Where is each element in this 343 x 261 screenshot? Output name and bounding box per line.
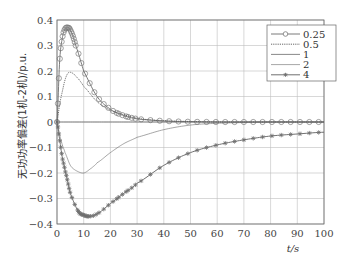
asterisk-marker <box>64 173 68 177</box>
x-tick-label: 30 <box>131 228 144 239</box>
asterisk-marker <box>284 73 288 77</box>
asterisk-marker <box>65 178 69 182</box>
asterisk-marker <box>176 156 180 160</box>
asterisk-marker <box>260 135 264 139</box>
asterisk-marker <box>316 130 320 134</box>
y-axis-ticks: 0.40.30.20.10−0.1−0.2−0.3−0.4 <box>29 15 53 230</box>
x-tick-label: 60 <box>211 228 224 239</box>
y-tick-label: 0.1 <box>37 91 53 102</box>
asterisk-marker <box>251 136 255 140</box>
asterisk-marker <box>60 157 64 161</box>
asterisk-marker <box>56 125 60 129</box>
asterisk-marker <box>63 170 67 174</box>
asterisk-marker <box>66 182 70 186</box>
asterisk-marker <box>59 151 63 155</box>
asterisk-marker <box>70 195 74 199</box>
asterisk-marker <box>126 188 130 192</box>
y-axis-label: 无功功率偏差(1机-2机)/p.u. <box>16 53 28 180</box>
asterisk-marker <box>106 203 110 207</box>
asterisk-marker <box>117 195 121 199</box>
asterisk-marker <box>298 132 302 136</box>
asterisk-marker <box>214 143 218 147</box>
x-tick-label: 50 <box>184 228 197 239</box>
y-tick-label: −0.3 <box>29 193 53 204</box>
asterisk-marker <box>59 145 63 149</box>
y-tick-label: 0.3 <box>37 40 53 51</box>
asterisk-marker <box>232 139 236 143</box>
asterisk-marker <box>139 179 143 183</box>
x-tick-label: 40 <box>157 228 170 239</box>
asterisk-marker <box>223 141 227 145</box>
legend: 0.250.5124 <box>267 25 336 81</box>
y-tick-label: −0.2 <box>29 168 53 179</box>
asterisk-marker <box>58 139 62 143</box>
y-tick-label: 0.4 <box>37 15 53 26</box>
asterisk-marker <box>242 138 246 142</box>
y-tick-label: −0.1 <box>29 142 53 153</box>
asterisk-marker <box>158 166 162 170</box>
asterisk-marker <box>307 131 311 135</box>
x-tick-label: 80 <box>264 228 277 239</box>
line-chart: 0.40.30.20.10−0.1−0.2−0.3−0.4 0102030405… <box>0 0 343 261</box>
asterisk-marker <box>67 186 71 190</box>
legend-box <box>267 25 336 81</box>
asterisk-marker <box>167 160 171 164</box>
asterisk-marker <box>111 199 115 203</box>
x-tick-label: 90 <box>291 228 304 239</box>
series-4 <box>55 120 324 219</box>
asterisk-marker <box>120 192 124 196</box>
asterisk-marker <box>186 151 190 155</box>
asterisk-marker <box>133 183 137 187</box>
diamond-marker <box>283 32 288 37</box>
x-tick-label: 10 <box>77 228 90 239</box>
x-tick-label: 0 <box>54 228 60 239</box>
asterisk-marker <box>61 161 65 165</box>
y-tick-label: 0 <box>47 117 53 128</box>
asterisk-marker <box>148 172 152 176</box>
asterisk-marker <box>73 202 77 206</box>
asterisk-marker <box>270 134 274 138</box>
asterisk-marker <box>288 132 292 136</box>
x-tick-label: 70 <box>238 228 251 239</box>
legend-label: 4 <box>303 69 309 80</box>
x-tick-label: 100 <box>314 228 333 239</box>
asterisk-marker <box>97 210 101 214</box>
x-axis-ticks: 0102030405060708090100 <box>54 228 334 239</box>
y-tick-label: 0.2 <box>37 66 53 77</box>
asterisk-marker <box>130 186 134 190</box>
asterisk-marker <box>68 190 72 194</box>
y-tick-label: −0.4 <box>29 219 53 230</box>
asterisk-marker <box>204 145 208 149</box>
asterisk-marker <box>102 207 106 211</box>
asterisk-marker <box>62 165 66 169</box>
asterisk-marker <box>195 148 199 152</box>
x-tick-label: 20 <box>104 228 117 239</box>
x-axis-label: t/s <box>287 243 300 254</box>
asterisk-marker <box>279 133 283 137</box>
